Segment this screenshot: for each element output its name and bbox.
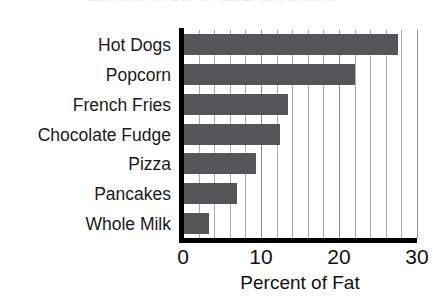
gridline-minor [292, 30, 293, 238]
x-axis-title: Percent of Fat [183, 272, 417, 294]
gridline-major [417, 30, 418, 238]
bar [183, 153, 256, 174]
gridline-minor [401, 30, 402, 238]
gridline-minor [386, 30, 387, 238]
chart-title: Percent of Fat in Selected Foods [0, 0, 423, 1]
x-tick-label: 20 [316, 245, 362, 269]
x-tick-label: 10 [238, 245, 284, 269]
bar [183, 183, 237, 204]
category-label: Whole Milk [85, 214, 171, 234]
bar [183, 34, 398, 55]
category-label: Popcorn [106, 65, 171, 85]
gridline-minor [370, 30, 371, 238]
x-tick-label: 30 [394, 245, 433, 269]
category-label: Pizza [128, 154, 171, 174]
gridline-minor [355, 30, 356, 238]
gridline-major [339, 30, 340, 238]
category-label: Hot Dogs [98, 35, 171, 55]
plot-area [183, 30, 417, 238]
category-label: French Fries [73, 95, 171, 115]
gridline-minor [323, 30, 324, 238]
category-label: Chocolate Fudge [38, 125, 171, 145]
gridline-minor [308, 30, 309, 238]
bar [183, 213, 209, 234]
x-tick-label: 0 [160, 245, 206, 269]
x-axis-line [179, 238, 417, 243]
bar [183, 124, 280, 145]
bar [183, 94, 288, 115]
value-axis-tick-labels: 0102030 [0, 245, 423, 273]
y-axis-line [179, 28, 184, 240]
bar [183, 64, 355, 85]
category-label: Pancakes [94, 184, 171, 204]
category-axis-labels: Hot DogsPopcornFrench FriesChocolate Fud… [0, 30, 177, 238]
